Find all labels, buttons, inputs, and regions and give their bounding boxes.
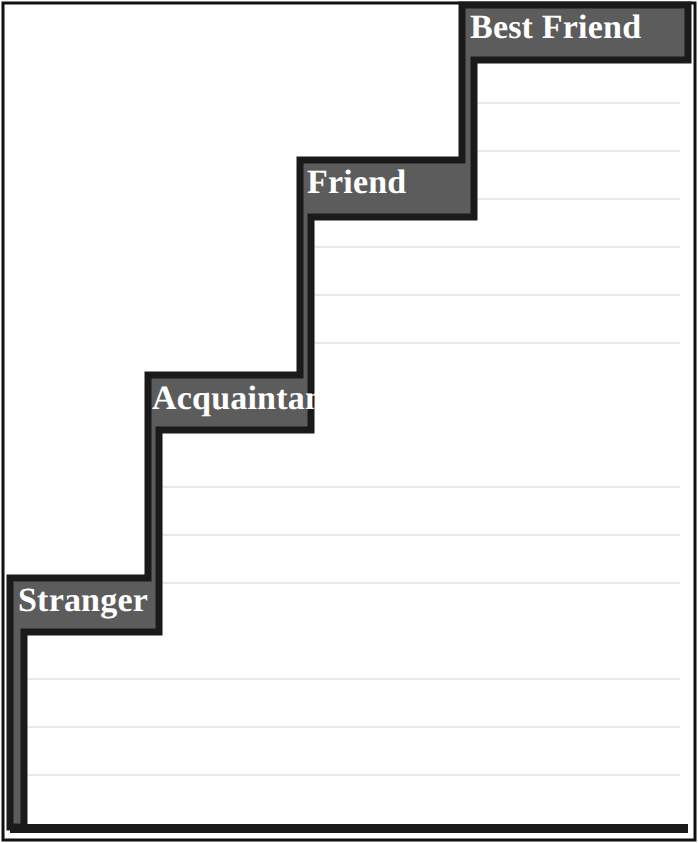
step-label-stranger: Stranger xyxy=(18,584,148,618)
staircase-diagram xyxy=(0,0,698,843)
worksheet-page: Stranger Acquaintance Friend Best Friend xyxy=(0,0,698,843)
page-bottom-rule xyxy=(10,824,688,833)
step-label-acquaintance: Acquaintance xyxy=(152,382,355,416)
step-label-friend: Friend xyxy=(307,166,406,200)
step-label-best-friend: Best Friend xyxy=(470,11,641,45)
